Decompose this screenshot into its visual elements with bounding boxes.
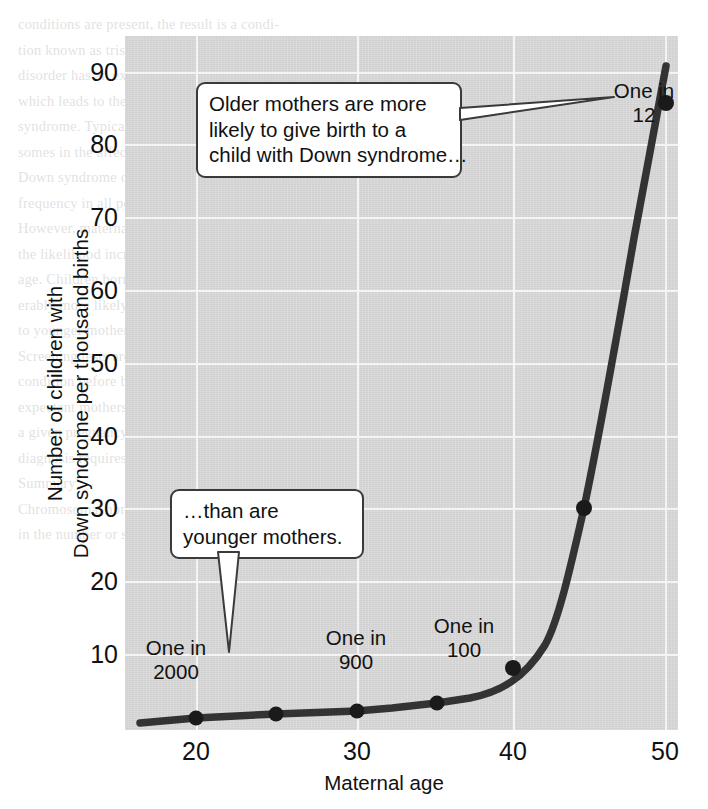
x-tick-20: 20 [156,737,236,766]
gridline-x-50 [665,36,667,730]
point-label-2000-line2: 2000 [112,660,240,684]
x-axis-title: Maternal age [0,771,708,795]
point-label-100-line1: One in [400,614,528,638]
callout-younger-mothers: …than are younger mothers. [170,489,364,559]
point-label-12-line2: 12 [594,103,694,127]
gridline-y-60 [125,290,678,292]
point-label-100-line2: 100 [400,638,528,662]
y-axis-title: Number of children with Down syndrome pe… [42,74,93,714]
point-label-one-in-100: One in 100 [400,614,528,662]
y-axis-title-line2: Down syndrome per thousand births [67,74,93,714]
gridline-y-90 [125,72,678,74]
callout-top-line3: child with Down syndrome… [209,142,449,168]
point-label-2000-line1: One in [112,636,240,660]
x-tick-40: 40 [473,737,553,766]
callout-older-mothers: Older mothers are more likely to give bi… [196,82,462,178]
y-axis-title-line1: Number of children with [42,74,68,714]
x-tick-30: 30 [317,737,397,766]
gridline-y-20 [125,581,678,583]
point-label-12-line1: One in [594,79,694,103]
point-label-one-in-12: One in 12 [594,79,694,127]
chart-figure: 90 80 70 60 50 40 30 20 10 20 30 40 50 N… [0,0,708,809]
callout-bottom-line2: younger mothers. [183,524,351,550]
callout-top-line1: Older mothers are more [209,91,449,117]
callout-bottom-line1: …than are [183,498,351,524]
x-tick-50: 50 [625,737,705,766]
gridline-y-50 [125,363,678,365]
point-label-one-in-2000: One in 2000 [112,636,240,684]
gridline-y-40 [125,436,678,438]
gridline-y-70 [125,217,678,219]
callout-top-line2: likely to give birth to a [209,117,449,143]
